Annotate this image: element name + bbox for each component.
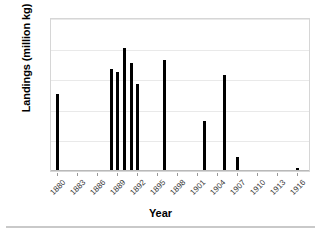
- chart-figure: Landings (million kg) 00.511.522.5 18801…: [0, 0, 321, 233]
- x-axis-tick-label: 1904: [202, 178, 227, 203]
- x-axis-tick-label: 1901: [182, 178, 207, 203]
- axis-baseline: [51, 170, 309, 171]
- x-axis-tick-mark: [277, 173, 278, 176]
- x-axis-tick-label: 1913: [262, 178, 287, 203]
- x-axis-tick-mark: [97, 173, 98, 176]
- x-axis-tick-mark: [297, 173, 298, 176]
- bar: [163, 60, 166, 170]
- bar: [123, 48, 126, 170]
- bar: [223, 75, 226, 170]
- x-axis-tick-label: 1889: [102, 178, 127, 203]
- x-axis-tick-label: 1880: [42, 178, 67, 203]
- gridline: [51, 141, 309, 142]
- plot-area: [50, 18, 310, 172]
- bar: [110, 69, 113, 170]
- x-axis-tick-mark: [197, 173, 198, 176]
- footer-rule: [6, 226, 315, 228]
- x-axis-tick-mark: [57, 173, 58, 176]
- x-axis-tick-mark: [117, 173, 118, 176]
- gridline: [51, 80, 309, 81]
- x-axis-tick-label: 1895: [142, 178, 167, 203]
- x-axis-tick-mark: [137, 173, 138, 176]
- gridline: [51, 19, 309, 20]
- bar: [56, 94, 59, 171]
- x-axis-tick-label: 1916: [282, 178, 307, 203]
- x-axis-tick-label: 1898: [162, 178, 187, 203]
- x-axis-tick-label: 1886: [82, 178, 107, 203]
- x-axis-tick-label: 1883: [62, 178, 87, 203]
- bar: [116, 72, 119, 170]
- x-axis-tick-mark: [237, 173, 238, 176]
- bar: [236, 157, 239, 170]
- x-axis-tick-label: 1910: [242, 178, 267, 203]
- bar: [296, 168, 299, 170]
- x-axis-tick-mark: [77, 173, 78, 176]
- x-axis-tick-label: 1892: [122, 178, 147, 203]
- x-axis-tick-mark: [157, 173, 158, 176]
- x-axis-tick-mark: [217, 173, 218, 176]
- bar: [203, 121, 206, 170]
- x-axis-tick-label: 1907: [222, 178, 247, 203]
- bar: [136, 84, 139, 170]
- y-axis-title: Landings (million kg): [20, 0, 32, 128]
- gridline: [51, 50, 309, 51]
- bar: [130, 63, 133, 170]
- x-axis-tick-mark: [257, 173, 258, 176]
- x-axis-title: Year: [0, 207, 321, 219]
- x-axis-tick-mark: [177, 173, 178, 176]
- gridline: [51, 111, 309, 112]
